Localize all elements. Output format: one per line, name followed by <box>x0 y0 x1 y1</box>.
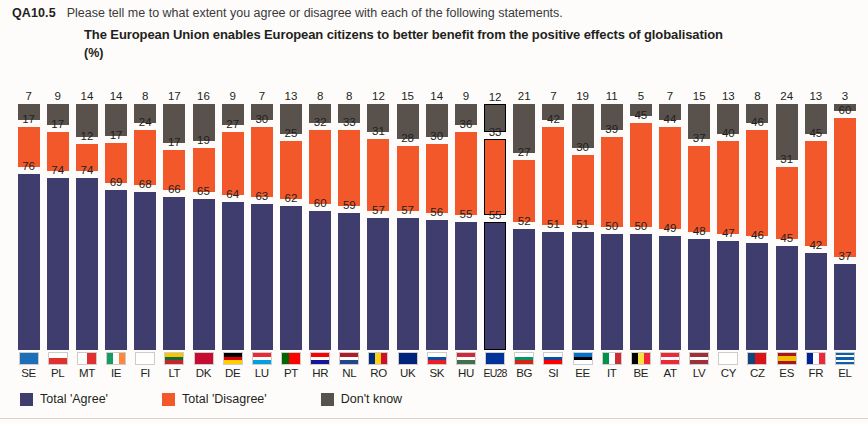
bar-column: 134047 <box>714 72 743 350</box>
country-code-label: IT <box>607 367 617 379</box>
dont-know-bar-value: 8 <box>346 90 352 102</box>
column-upper: 123157 <box>367 104 389 350</box>
legend-item-agree[interactable]: Total 'Agree' <box>20 392 108 406</box>
flag-icon-fi <box>135 352 155 365</box>
bar-column: 113950 <box>597 72 626 350</box>
dont-know-bar-value: 24 <box>780 90 793 102</box>
disagree-bar: 32 <box>309 130 331 204</box>
bar-column: 141769 <box>101 72 130 350</box>
flag-icon-ro <box>368 352 388 365</box>
legend-swatch-dont_know <box>321 393 334 406</box>
agree-bar: 42 <box>805 253 827 350</box>
dont-know-bar-value: 8 <box>317 90 323 102</box>
country-code-label: CZ <box>750 367 765 379</box>
bar-column: 153748 <box>685 72 714 350</box>
dont-know-bar-value: 14 <box>80 90 93 102</box>
flag-icon-se <box>19 352 39 365</box>
column-upper: 83359 <box>338 104 360 350</box>
dont-know-bar-value: 12 <box>372 90 385 102</box>
disagree-bar: 45 <box>805 141 827 245</box>
country-code-label: IE <box>111 367 121 379</box>
legend-swatch-disagree <box>162 393 175 406</box>
column-upper: 134542 <box>805 104 827 350</box>
agree-bar: 74 <box>76 178 98 350</box>
disagree-bar-value: 17 <box>168 136 181 148</box>
bar-column: 84646 <box>743 72 772 350</box>
country-axis-cell: IE <box>101 352 130 379</box>
disagree-bar-value: 60 <box>839 104 852 116</box>
dont-know-bar-value: 14 <box>430 90 443 102</box>
flag-icon-nl <box>339 352 359 365</box>
disagree-bar-value: 40 <box>722 127 735 139</box>
country-code-label: NL <box>342 367 356 379</box>
agree-bar-value: 69 <box>110 176 123 188</box>
disagree-bar-value: 27 <box>226 118 239 130</box>
flag-icon-cz <box>747 352 767 365</box>
dont-know-bar-value: 8 <box>754 90 760 102</box>
disagree-bar: 39 <box>601 137 623 227</box>
agree-bar: 46 <box>746 243 768 350</box>
agree-bar-value: 60 <box>314 197 327 209</box>
legend-item-disagree[interactable]: Total 'Disagree' <box>162 392 267 406</box>
agree-bar-value: 65 <box>197 185 210 197</box>
flag-icon-it <box>602 352 622 365</box>
dont-know-bar-value: 9 <box>55 90 61 102</box>
disagree-bar: 60 <box>834 118 856 257</box>
agree-bar-value: 74 <box>51 164 64 176</box>
column-upper: 92764 <box>222 104 244 350</box>
agree-bar: 60 <box>309 211 331 350</box>
country-axis: SEPLMTIEFILTDKDELUPTHRNLROUKSKHUEU28BGSI… <box>14 352 860 379</box>
dont-know-bar-value: 5 <box>638 90 644 102</box>
flag-icon-at <box>660 352 680 365</box>
country-axis-cell: LU <box>247 352 276 379</box>
column-upper: 82468 <box>134 104 156 350</box>
column-upper: 74251 <box>542 104 564 350</box>
bar-column: 243145 <box>772 72 801 350</box>
agree-bar: 45 <box>776 246 798 350</box>
disagree-bar-value: 12 <box>80 130 93 142</box>
legend-label: Don't know <box>341 392 402 406</box>
flag-icon-sk <box>427 352 447 365</box>
dont-know-bar-value: 8 <box>142 90 148 102</box>
country-axis-cell: EU28 <box>481 352 510 379</box>
disagree-bar: 33 <box>484 139 506 216</box>
disagree-bar: 44 <box>659 127 681 229</box>
column-upper: 93655 <box>455 104 477 350</box>
country-code-label: LU <box>255 367 269 379</box>
flag-icon-cy <box>718 352 738 365</box>
country-code-label: ES <box>779 367 794 379</box>
country-code-label: EL <box>838 367 851 379</box>
disagree-bar: 30 <box>251 127 273 197</box>
chart-page: QA10.5 Please tell me to what extent you… <box>0 0 868 424</box>
country-code-label: AT <box>663 367 676 379</box>
country-axis-cell: IT <box>597 352 626 379</box>
unit-label: (%) <box>84 46 868 60</box>
column-upper: 91774 <box>47 104 69 350</box>
agree-bar: 37 <box>834 264 856 350</box>
disagree-bar-value: 45 <box>634 109 647 121</box>
country-axis-row: SEPLMTIEFILTDKDELUPTHRNLROUKSKHUEU28BGSI… <box>14 352 860 379</box>
disagree-bar-value: 25 <box>285 127 298 139</box>
country-axis-cell: DK <box>189 352 218 379</box>
flag-icon-fr <box>806 352 826 365</box>
disagree-bar: 28 <box>397 146 419 211</box>
dont-know-bar-value: 14 <box>110 90 123 102</box>
column-upper: 152857 <box>397 104 419 350</box>
country-axis-cell: CY <box>714 352 743 379</box>
agree-bar: 56 <box>426 220 448 350</box>
disagree-bar-value: 24 <box>139 116 152 128</box>
country-axis-cell: NL <box>335 352 364 379</box>
column-upper: 141274 <box>76 104 98 350</box>
legend-item-dont_know[interactable]: Don't know <box>321 392 402 406</box>
country-code-label: SI <box>548 367 558 379</box>
flag-icon-de <box>223 352 243 365</box>
agree-bar: 68 <box>134 192 156 350</box>
country-code-label: SE <box>21 367 36 379</box>
agree-bar: 50 <box>601 234 623 350</box>
dont-know-bar-value: 12 <box>489 91 502 103</box>
dont-know-bar-value: 17 <box>168 90 181 102</box>
bar-column: 193051 <box>568 72 597 350</box>
legend-label: Total 'Agree' <box>40 392 108 406</box>
disagree-bar-value: 31 <box>372 125 385 137</box>
agree-bar: 57 <box>397 218 419 350</box>
